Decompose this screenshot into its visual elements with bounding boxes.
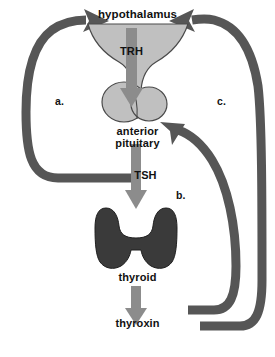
label-trh: TRH [0, 46, 269, 58]
label-thyroxin: thyroxin [0, 318, 275, 330]
label-anterior-pituitary: anterior pituitary [0, 126, 275, 150]
thyroid-shape [95, 208, 177, 268]
label-tsh: TSH [8, 170, 275, 182]
label-thyroid: thyroid [0, 272, 275, 284]
label-feedback-b: b. [176, 190, 186, 201]
label-hypothalamus: hypothalamus [0, 8, 275, 20]
label-feedback-c: c. [217, 96, 226, 107]
label-feedback-a: a. [55, 96, 64, 107]
feedback-loop-diagram: hypothalamus TRH anterior pituitary TSH … [0, 0, 275, 357]
